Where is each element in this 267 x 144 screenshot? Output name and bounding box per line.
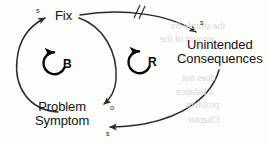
delay-mark-icon bbox=[134, 5, 145, 19]
bleed-text: problem bbox=[186, 99, 219, 111]
reinforcing-loop-letter: R bbox=[148, 56, 157, 68]
bleed-text: does not bbox=[182, 72, 216, 84]
node-fix: Fix bbox=[55, 9, 72, 23]
bleed-text: Chapter bbox=[188, 114, 220, 126]
node-problem-symptom-label-line1: Problem bbox=[35, 100, 89, 114]
link-fix-to-problem-symptom bbox=[79, 18, 116, 104]
bleed-text: a balance bbox=[176, 86, 213, 98]
polarity-fix-to-problem-symptom: o bbox=[110, 104, 114, 111]
reinforcing-loop-icon bbox=[128, 51, 149, 73]
polarity-unintended-consequences-to-problem-symptom: s bbox=[106, 130, 110, 137]
node-unintended-consequences: Unintended Consequences bbox=[177, 38, 263, 66]
polarity-fix-to-unintended-consequences: s bbox=[200, 19, 204, 26]
node-problem-symptom: Problem Symptom bbox=[35, 100, 89, 128]
balancing-loop-letter: B bbox=[63, 58, 72, 70]
node-unintended-consequences-label-line1: Unintended bbox=[177, 38, 263, 52]
causal-loop-diagram: the simple fix amount of the does not a … bbox=[0, 0, 267, 144]
link-problem-symptom-to-fix bbox=[17, 18, 58, 112]
node-fix-label: Fix bbox=[55, 9, 72, 23]
node-problem-symptom-label-line2: Symptom bbox=[35, 114, 89, 128]
bleed-text: the simple fix bbox=[170, 20, 225, 32]
polarity-problem-symptom-to-fix: s bbox=[36, 7, 40, 14]
node-unintended-consequences-label-line2: Consequences bbox=[177, 52, 263, 66]
balancing-loop-icon bbox=[43, 52, 64, 74]
